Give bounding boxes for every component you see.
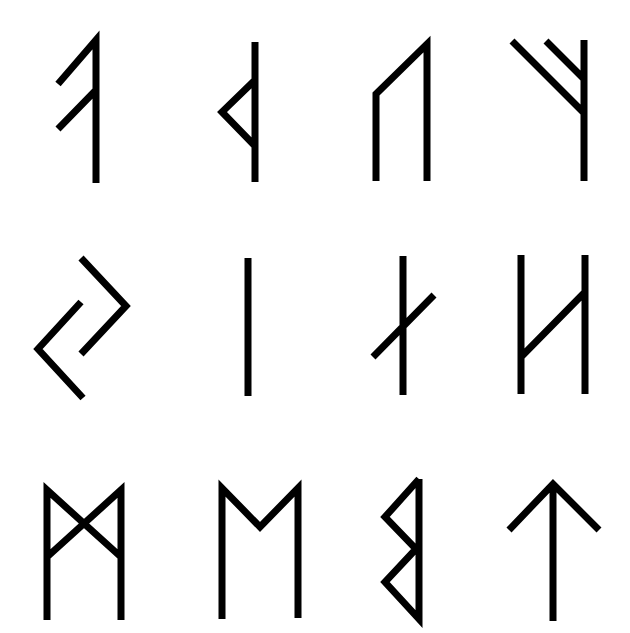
rune-grid xyxy=(0,0,630,633)
